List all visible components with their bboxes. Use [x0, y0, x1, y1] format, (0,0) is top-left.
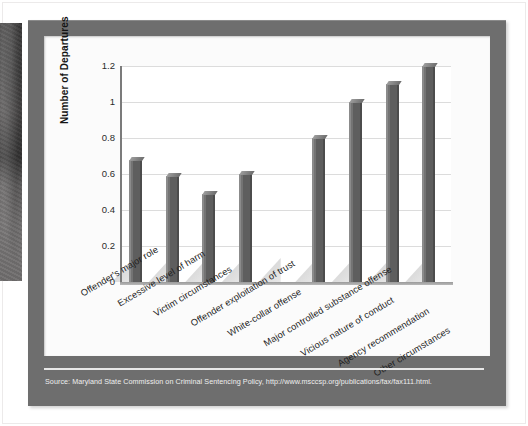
- bar[interactable]: [312, 138, 325, 282]
- frame-highlight: [28, 20, 506, 21]
- y-axis-tick-label: 0.4: [75, 204, 115, 215]
- y-axis-tick-label: 1.2: [75, 60, 115, 71]
- bar-top-face: [349, 99, 365, 103]
- bar-slot: [378, 66, 415, 282]
- bar-slot: [341, 66, 378, 282]
- y-axis-tick-label: 1: [75, 96, 115, 107]
- bar-top-face: [166, 173, 182, 177]
- x-axis-category-label: Agency recommendation: [336, 306, 431, 369]
- source-note: Source: Maryland State Commission on Cri…: [45, 377, 489, 387]
- bar[interactable]: [422, 66, 435, 282]
- bar-slot: [231, 66, 268, 282]
- bar-slot: [304, 66, 341, 282]
- bar-chart-plot: Number of Departures 00.20.40.60.811.2 O…: [121, 66, 451, 306]
- bar-slot: [158, 66, 195, 282]
- caption-band: Source: Maryland State Commission on Cri…: [44, 368, 490, 394]
- bar-top-face: [422, 63, 438, 67]
- bar-top-face: [312, 135, 328, 139]
- bar-slot: [414, 66, 451, 282]
- y-axis-tick-label: 0.6: [75, 168, 115, 179]
- bar-top-face: [386, 81, 402, 85]
- x-axis-category-label: Vicious nature of conduct: [299, 295, 396, 359]
- y-axis-tick-label: 0.2: [75, 240, 115, 251]
- bar-slot: [268, 66, 305, 282]
- y-axis-tick-label: 0.8: [75, 132, 115, 143]
- bar[interactable]: [202, 194, 215, 282]
- figure-frame: Number of Departures 00.20.40.60.811.2 O…: [28, 20, 506, 406]
- bar[interactable]: [239, 174, 252, 282]
- bar-top-face: [129, 157, 145, 161]
- x-axis-line: [120, 282, 453, 285]
- caption-divider: [44, 368, 484, 370]
- bar-top-face: [202, 191, 218, 195]
- plot-area: [121, 66, 451, 282]
- y-axis-title: Number of Departures: [59, 16, 70, 124]
- chart-canvas: Number of Departures 00.20.40.60.811.2 O…: [44, 36, 490, 356]
- bar-top-face: [239, 171, 255, 175]
- decorative-photo-strip: [0, 23, 22, 281]
- y-axis-line: [120, 66, 122, 283]
- bar[interactable]: [349, 102, 362, 282]
- bar[interactable]: [386, 84, 399, 282]
